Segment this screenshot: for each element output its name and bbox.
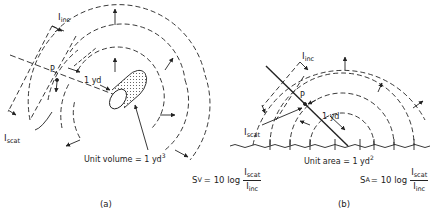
panel-a-incident-label: Iinc: [58, 13, 70, 24]
panel-a-point-label: P: [50, 66, 55, 74]
panel-a-distance-label: 1 yd: [84, 77, 101, 85]
numerator-subscript: scat: [414, 171, 428, 179]
formula-fraction: Iscat Iinc: [410, 168, 428, 192]
formula-lhs-subscript: V: [197, 177, 201, 184]
scattered-subscript: scat: [247, 131, 261, 139]
scattered-subscript: scat: [7, 137, 21, 145]
sea-bottom: [230, 145, 430, 148]
incident-subscript: inc: [305, 55, 315, 63]
panel-b-caption: (b): [338, 200, 350, 209]
denominator-subscript: inc: [416, 185, 426, 193]
unit-area-exponent: 2: [370, 154, 374, 161]
panel-a-volume-scattering: [8, 5, 210, 160]
panel-b-scattered-label: Iscat: [244, 128, 260, 139]
numerator-subscript: scat: [247, 171, 261, 179]
panel-b-incident-label: Iinc: [302, 52, 314, 63]
unit-volume-exponent: 3: [162, 152, 166, 159]
panel-b-distance-label: 1 yd: [322, 113, 339, 121]
formula-operator: = 10 log: [204, 176, 240, 185]
panel-a-caption: (a): [100, 200, 112, 209]
unit-volume-cylinder: [106, 70, 147, 112]
panel-b-unit-area-label: Unit area = 1 yd2: [304, 155, 374, 166]
formula-lhs-subscript: A: [365, 177, 369, 184]
formula-operator: = 10 log: [371, 176, 407, 185]
panel-a-formula: SV = 10 log Iscat Iinc: [192, 168, 261, 192]
unit-area-text: Unit area = 1 yd: [304, 157, 370, 166]
incident-subscript: inc: [61, 16, 71, 24]
unit-volume-text: Unit volume = 1 yd: [84, 155, 162, 164]
panel-b-formula: SA= 10 log Iscat Iinc: [360, 168, 428, 192]
panel-a-scattered-label: Iscat: [4, 134, 20, 145]
formula-fraction: Iscat Iinc: [243, 168, 261, 192]
panel-b-point-label: P: [300, 92, 305, 100]
panel-a-unit-volume-label: Unit volume = 1 yd3: [84, 153, 166, 164]
denominator-subscript: inc: [249, 185, 259, 193]
